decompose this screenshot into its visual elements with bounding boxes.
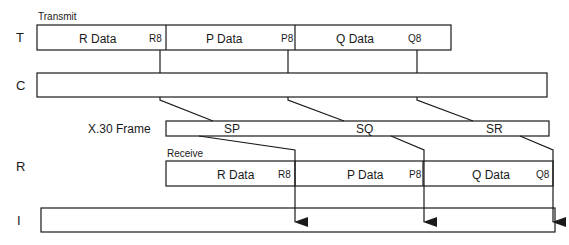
receive-caption: Receive (167, 148, 203, 160)
receive-segment-p-marker: P8 (409, 169, 421, 181)
receive-segment-q-label: Q Data (472, 168, 510, 182)
row-label-t: T (16, 31, 24, 45)
x30-slot-sq: SQ (356, 122, 373, 136)
receive-segment-q-marker: Q8 (536, 169, 549, 181)
transmit-caption: Transmit (38, 11, 77, 23)
row-label-c: C (16, 79, 25, 93)
x30-caption: X.30 Frame (88, 122, 151, 136)
channel-bar (37, 73, 547, 97)
transmit-segment-r-label: R Data (79, 32, 116, 46)
receive-segment-p-label: P Data (347, 168, 383, 182)
transmit-segment-r-marker: R8 (149, 33, 162, 45)
row-label-i: I (17, 214, 21, 228)
receive-segment-r-label: R Data (217, 168, 254, 182)
interface-bar (41, 208, 555, 232)
x30-slot-sp: SP (224, 122, 240, 136)
transmit-segment-q-label: Q Data (336, 32, 374, 46)
transmit-segment-q-marker: Q8 (408, 33, 421, 45)
transmit-segment-p-label: P Data (206, 32, 242, 46)
transmit-segment-p-marker: P8 (281, 33, 293, 45)
x30-slot-sr: SR (486, 122, 503, 136)
receive-segment-r-marker: R8 (278, 169, 291, 181)
row-label-r: R (16, 160, 25, 174)
